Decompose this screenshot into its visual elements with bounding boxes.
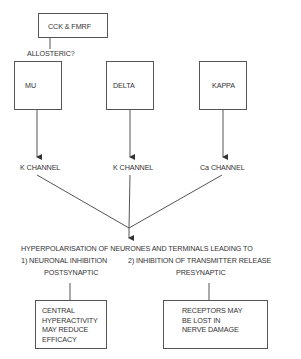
kappa-receptor-box: KAPPA	[199, 61, 247, 110]
mu-receptor-box: MU	[14, 61, 62, 110]
receptors-lost-box: RECEPTORS MAY BE LOST IN NERVE DAMAGE	[163, 300, 268, 349]
cck-fmrf-box: CCK & FMRF	[38, 13, 108, 38]
presynaptic-text: PRESYNAPTIC	[176, 269, 226, 276]
delta-channel-label: K CHANNEL	[113, 164, 153, 171]
hyperpolarisation-text: HYPERPOLARISATION OF NEURONES AND TERMIN…	[21, 245, 253, 252]
transmitter-release-text: 2) INHIBITION OF TRANSMITTER RELEASE	[128, 257, 271, 264]
central-hyperactivity-box: CENTRAL HYPERACTIVITY MAY REDUCE EFFICAC…	[35, 300, 107, 349]
mu-label: MU	[25, 82, 36, 89]
receptors-lost-text: RECEPTORS MAY BE LOST IN NERVE DAMAGE	[182, 306, 242, 335]
box-line: NERVE DAMAGE	[182, 325, 242, 335]
delta-receptor-box: DELTA	[106, 61, 154, 110]
box-line: EFFICACY	[42, 335, 98, 345]
mu-channel-label: K CHANNEL	[20, 164, 60, 171]
box-line: CENTRAL	[42, 306, 98, 316]
allosteric-label: ALLOSTERIC?	[27, 50, 75, 57]
cck-fmrf-label: CCK & FMRF	[48, 23, 91, 30]
box-line: BE LOST IN	[182, 316, 242, 326]
box-line: RECEPTORS MAY	[182, 306, 242, 316]
kappa-channel-label: Ca CHANNEL	[200, 164, 245, 171]
box-line: HYPERACTIVITY	[42, 316, 98, 326]
postsynaptic-text: POSTSYNAPTIC	[44, 269, 98, 276]
kappa-label: KAPPA	[212, 82, 235, 89]
delta-label: DELTA	[113, 82, 135, 89]
box-line: MAY REDUCE	[42, 325, 98, 335]
neuronal-inhibition-text: 1) NEURONAL INHIBITION	[21, 257, 107, 264]
central-hyperactivity-text: CENTRAL HYPERACTIVITY MAY REDUCE EFFICAC…	[42, 306, 98, 344]
